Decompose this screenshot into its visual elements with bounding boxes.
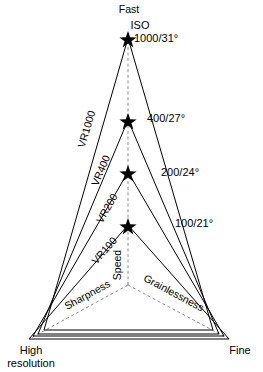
label-corner-fine: Fine [229,344,250,356]
film-characteristics-radar-chart: Fast ISO 1000/31° 400/27° 200/24° 100/21… [0,0,263,372]
label-iso-1000: 1000/31° [134,32,178,44]
label-axis-speed: Speed [111,250,123,281]
label-corner-high: High [20,344,43,356]
star-marker-vr200 [119,165,136,181]
label-fast: Fast [119,3,140,15]
label-iso-100: 100/21° [175,217,213,229]
label-series-vr1000: VR1000 [75,109,97,149]
label-iso: ISO [131,19,150,31]
label-axis-sharpness: Sharpness [62,277,112,312]
label-corner-resolution: resolution [7,357,55,369]
radar-chart-svg: Fast ISO 1000/31° 400/27° 200/24° 100/21… [0,0,263,372]
label-iso-400: 400/27° [147,112,185,124]
label-axis-grainlessness: Grainlessness [142,272,206,314]
label-iso-200: 200/24° [161,166,199,178]
label-series-vr200: VR200 [93,191,120,225]
label-series-vr400: VR400 [89,153,113,187]
